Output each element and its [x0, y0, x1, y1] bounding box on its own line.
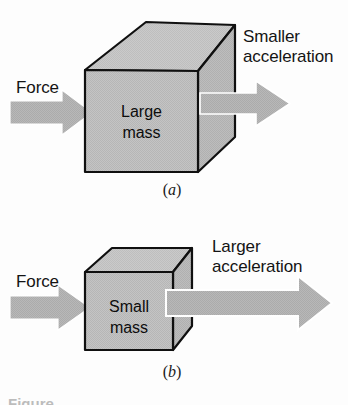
force-arrow-b — [10, 285, 90, 330]
acceleration-label-b: Larger acceleration — [212, 237, 302, 277]
force-label-a: Force — [16, 78, 59, 97]
panel-caption-a-close-paren: ) — [176, 181, 181, 198]
mass-label-a: Large mass — [85, 101, 198, 143]
clipped-figure-caption: Figure — [8, 396, 208, 405]
panel-caption-a: (a) — [152, 181, 192, 199]
acceleration-label-a: Smaller acceleration — [243, 27, 333, 67]
panel-caption-b: (b) — [152, 363, 192, 381]
panel-caption-a-letter: a — [168, 181, 176, 198]
mass-label-b: Small mass — [85, 296, 173, 338]
panel-caption-b-letter: b — [168, 363, 176, 380]
force-label-b: Force — [16, 272, 59, 291]
panel-caption-b-close-paren: ) — [176, 363, 181, 380]
physics-figure: Force Smaller acceleration Large mass (a… — [0, 0, 348, 405]
